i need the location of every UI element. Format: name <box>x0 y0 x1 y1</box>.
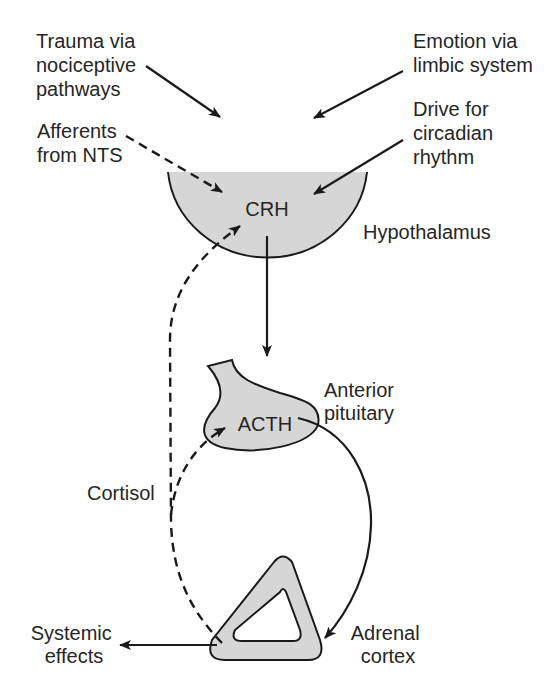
emotion-arrow <box>314 71 403 118</box>
emotion-label: Emotion via limbic system <box>413 30 533 76</box>
hypothalamus-top-fill <box>169 172 366 174</box>
systemic-effects-label: Systemic effects <box>31 622 118 667</box>
anterior-pituitary-label: Anterior pituitary <box>324 379 400 424</box>
pituitary-shape <box>204 360 318 450</box>
afferents-label: Afferents from NTS <box>37 120 123 166</box>
adrenal-cortex-shape <box>210 557 321 661</box>
trauma-arrow <box>146 66 220 117</box>
circadian-label: Drive for circadian rhythm <box>413 98 499 168</box>
acth-label: ACTH <box>238 413 292 435</box>
crh-label: CRH <box>245 198 288 220</box>
hypothalamus-label: Hypothalamus <box>363 221 491 243</box>
cortisol-label: Cortisol <box>87 482 155 504</box>
trauma-label: Trauma via nociceptive pathways <box>36 30 142 100</box>
acth-arrow <box>298 418 371 638</box>
hpa-axis-diagram: Trauma via nociceptive pathways Emotion … <box>0 0 557 692</box>
adrenal-cortex-label: Adrenal cortex <box>351 622 426 667</box>
